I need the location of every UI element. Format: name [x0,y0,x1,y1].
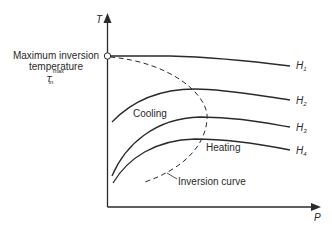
max-inversion-label: Maximum inversion temperature Tmaxin [10,50,102,85]
max-inversion-line1: Maximum inversion [10,50,102,61]
max-inversion-symbol: Tmaxin [10,72,102,85]
y-axis-label: T [96,14,102,25]
isenthalp-h3 [112,117,290,176]
inversion-curve-leader [167,173,177,179]
heating-label: Heating [206,142,240,153]
y-axis-arrow-icon [104,13,112,23]
h1-label: H1 [296,60,307,75]
inversion-curve-label: Inversion curve [178,176,246,187]
isenthalp-diagram: T P Maximum inversion temperature Tmaxin… [0,0,332,228]
h3-label: H3 [296,122,307,137]
symbol-sup: max [53,66,64,77]
h4-label: H4 [296,145,307,160]
symbol-sub: in [49,77,54,88]
x-axis-label: P [314,212,321,223]
h2-label: H2 [296,95,307,110]
inversion-curve [110,57,207,182]
cooling-label: Cooling [133,108,167,119]
max-inversion-point-icon [104,53,110,59]
x-axis-arrow-icon [311,203,321,211]
